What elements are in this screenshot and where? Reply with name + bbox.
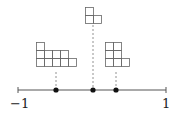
young-diagram-left-cell bbox=[61, 51, 69, 59]
young-diagram-left-cell bbox=[45, 59, 53, 67]
young-diagram-left-cell bbox=[37, 59, 45, 67]
young-diagram-left-cell bbox=[37, 51, 45, 59]
point-middle bbox=[90, 87, 95, 92]
young-diagram-middle-cell bbox=[94, 16, 102, 24]
young-diagram-left-cell bbox=[61, 59, 69, 67]
young-diagram-right-cell bbox=[106, 51, 114, 59]
point-right bbox=[113, 87, 118, 92]
young-diagram-left-cell bbox=[53, 59, 61, 67]
young-diagram-middle-cell bbox=[86, 8, 94, 16]
axis-max-label: 1 bbox=[162, 97, 170, 110]
young-diagram-left-cell bbox=[53, 51, 61, 59]
point-left bbox=[53, 87, 58, 92]
young-diagram-right-cell bbox=[106, 43, 114, 51]
young-diagram-left-cell bbox=[37, 43, 45, 51]
young-diagram-right-cell bbox=[114, 43, 122, 51]
young-diagram-left-cell bbox=[69, 59, 77, 67]
young-diagram-right-cell bbox=[122, 59, 130, 67]
axis-min-label: −1 bbox=[10, 97, 29, 110]
young-diagram-right-cell bbox=[114, 59, 122, 67]
young-diagram-right-cell bbox=[106, 59, 114, 67]
young-diagram-left-cell bbox=[45, 51, 53, 59]
young-diagram-right-cell bbox=[114, 51, 122, 59]
young-diagram-middle-cell bbox=[86, 16, 94, 24]
